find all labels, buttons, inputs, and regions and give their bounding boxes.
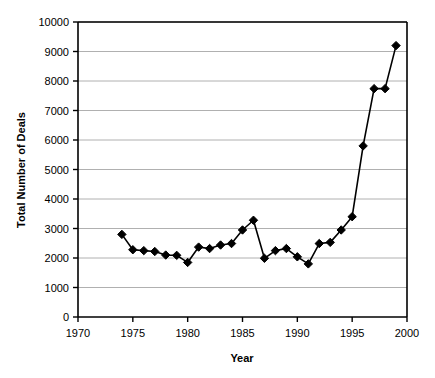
- x-tick-label: 1990: [285, 327, 309, 339]
- y-tick-label: 10000: [38, 16, 69, 28]
- y-tick-label: 2000: [45, 252, 69, 264]
- x-tick-label: 1995: [340, 327, 364, 339]
- y-tick-label: 0: [63, 311, 69, 323]
- line-chart: 0100020003000400050006000700080009000100…: [0, 0, 435, 378]
- y-tick-label: 8000: [45, 75, 69, 87]
- y-axis-title: Total Number of Deals: [15, 112, 27, 228]
- x-tick-label: 1980: [175, 327, 199, 339]
- chart-container: 0100020003000400050006000700080009000100…: [0, 0, 435, 378]
- x-tick-label: 1985: [230, 327, 254, 339]
- x-tick-label: 1970: [66, 327, 90, 339]
- y-tick-label: 6000: [45, 134, 69, 146]
- y-tick-label: 3000: [45, 223, 69, 235]
- y-tick-label: 9000: [45, 46, 69, 58]
- y-tick-label: 1000: [45, 282, 69, 294]
- x-axis-title: Year: [230, 352, 254, 364]
- x-tick-label: 1975: [121, 327, 145, 339]
- y-tick-label: 5000: [45, 164, 69, 176]
- y-tick-label: 7000: [45, 105, 69, 117]
- y-tick-label: 4000: [45, 193, 69, 205]
- x-tick-label: 2000: [395, 327, 419, 339]
